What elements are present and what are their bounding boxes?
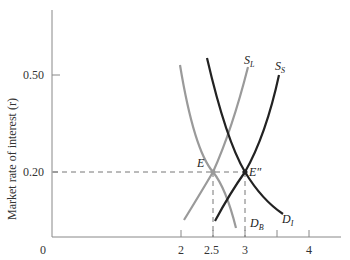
x-tick-label-2-5: 2.5	[204, 243, 219, 257]
label-e-double-prime: E″	[248, 165, 262, 179]
x-tick-label-4: 4	[306, 243, 312, 257]
point-e-double-prime	[243, 170, 248, 175]
y-tick-label-020: 0.20	[23, 165, 44, 179]
label-s-l: SL	[244, 53, 255, 69]
y-tick-label-050: 0.50	[23, 68, 44, 82]
label-d-i: DI	[281, 212, 294, 228]
label-e: E	[196, 156, 205, 170]
origin-label: 0	[40, 243, 46, 257]
label-s-s: SS	[275, 59, 285, 75]
chart: 0.50 0.20 0 2 2.5 3 4 Market rate of int…	[0, 0, 350, 260]
y-axis-title: Market rate of interest (r)	[5, 98, 19, 220]
label-d-b: DB	[249, 216, 264, 232]
curve-s-s	[215, 75, 279, 221]
point-e	[211, 170, 216, 175]
curve-d-b	[180, 65, 236, 228]
x-tick-label-2: 2	[178, 243, 184, 257]
x-tick-label-3: 3	[242, 243, 248, 257]
